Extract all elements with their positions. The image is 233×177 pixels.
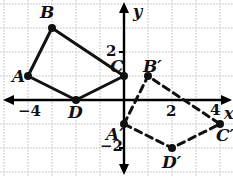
vertex-d-prime: [168, 144, 176, 152]
vertex-label-b: B: [40, 4, 54, 21]
x-axis-arrow-left: [3, 95, 14, 105]
vertex-b: [48, 24, 56, 32]
x-tick-label-4: 4: [210, 103, 220, 118]
y-tick-label-2: 2: [106, 44, 116, 59]
vertex-label-d-prime: D′: [162, 154, 181, 171]
x-tick-label-neg4: −4: [18, 104, 41, 119]
y-axis-label: y: [133, 4, 142, 20]
vertex-label-c: C: [110, 58, 124, 75]
x-axis-label: x: [224, 106, 233, 122]
vertex-label-c-prime: C′: [216, 127, 233, 144]
y-axis-arrow-up: [119, 2, 129, 13]
y-axis-arrow-down: [119, 164, 129, 175]
vertex-label-d: D: [68, 104, 83, 121]
vertex-label-a: A: [12, 68, 25, 85]
vertex-label-b-prime: B′: [143, 58, 162, 75]
graph-figure: A B C D A′ B′ C′ D′ y x −4 2 4 2 −2: [0, 0, 233, 177]
x-tick-label-2: 2: [166, 104, 176, 119]
y-tick-label-neg2: −2: [100, 139, 123, 154]
